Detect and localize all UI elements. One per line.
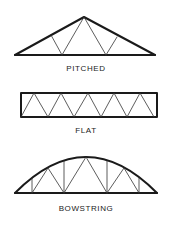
bowstring-truss xyxy=(15,157,157,193)
flat-label: Flat xyxy=(0,126,172,135)
pitched-web xyxy=(51,35,62,55)
flat-webs xyxy=(21,93,154,117)
pitched-web xyxy=(106,37,117,55)
bowstring-diagonal xyxy=(64,157,86,193)
bowstring-diagonal xyxy=(48,168,64,193)
bowstring-diagonal xyxy=(107,168,124,193)
pitched-truss xyxy=(15,17,155,55)
pitched-top-chord xyxy=(15,17,155,55)
flat-truss xyxy=(21,93,157,117)
bowstring-diagonal xyxy=(86,157,107,193)
bowstring-label: Bowstring xyxy=(0,204,172,213)
pitched-label: Pitched xyxy=(0,64,172,73)
truss-diagram xyxy=(0,0,172,226)
